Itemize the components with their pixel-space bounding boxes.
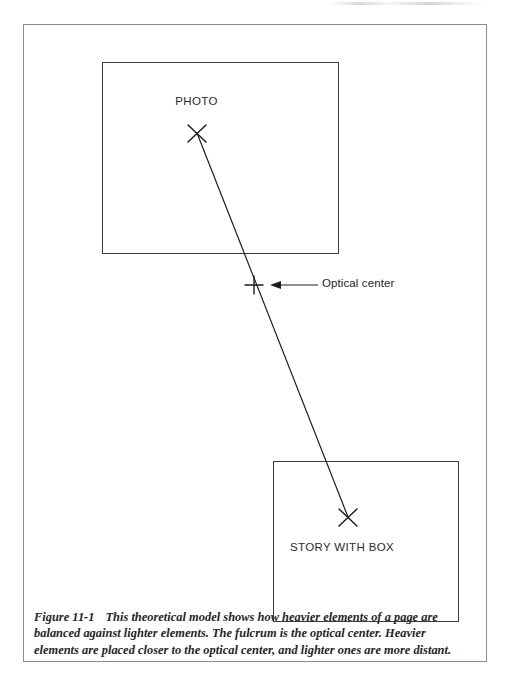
figure-caption-text: This theoretical model shows how heavier… [34,610,451,657]
figure-frame [23,24,487,662]
photo-box [102,62,339,254]
optical-center-label: Optical center [322,277,394,289]
figure-caption-number: Figure 11-1 [34,610,94,624]
figure-caption: Figure 11-1This theoretical model shows … [34,609,459,658]
figure-page: PHOTO STORY WITH BOX Optical center Figu… [0,0,508,683]
story-box-label: STORY WITH BOX [249,541,435,553]
scan-artifact [330,2,490,5]
photo-box-label: PHOTO [78,95,315,107]
